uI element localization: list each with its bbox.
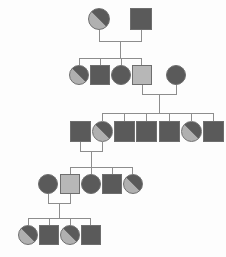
union-4-sibship-line xyxy=(28,218,91,219)
union-2-partner-drop-left xyxy=(142,85,143,94)
pedigree-symbol-male-I-2 xyxy=(130,8,152,30)
pedigree-symbol-male-III-5 xyxy=(159,121,180,142)
union-1-descent-line xyxy=(120,41,121,58)
union-1-partner-drop-right xyxy=(141,30,142,41)
union-1-partner-drop-left xyxy=(99,30,100,41)
pedigree-symbol-female-III-6 xyxy=(181,121,202,142)
union-4-child-drop-3 xyxy=(70,218,71,225)
pedigree-symbol-male-III-7 xyxy=(203,121,224,142)
pedigree-symbol-male-II-2 xyxy=(90,65,110,85)
union-2-child-drop-3 xyxy=(146,113,147,121)
union-3-partner-drop-right xyxy=(102,142,103,151)
pedigree-symbol-female-IV-1 xyxy=(38,174,58,194)
union-1-child-drop-2 xyxy=(100,58,101,65)
union-2-child-drop-4 xyxy=(169,113,170,121)
union-1-child-drop-1 xyxy=(79,58,80,65)
pedigree-symbol-female-II-3 xyxy=(111,65,131,85)
union-2-sibship-line xyxy=(102,113,214,114)
union-1-child-drop-3 xyxy=(121,58,122,65)
pedigree-symbol-female-II-1 xyxy=(69,65,89,85)
union-2-partner-drop-right xyxy=(176,85,177,94)
union-1-sibship-line xyxy=(79,58,142,59)
pedigree-symbol-male-V-4 xyxy=(81,225,101,245)
pedigree-symbol-male-IV-2 xyxy=(60,174,80,194)
pedigree-symbol-female-III-2 xyxy=(92,121,113,142)
union-3-child-drop-4 xyxy=(132,167,133,174)
union-2-child-drop-1 xyxy=(102,113,103,121)
pedigree-symbol-male-III-4 xyxy=(136,121,157,142)
union-4-child-drop-4 xyxy=(90,218,91,225)
pedigree-symbol-female-IV-3 xyxy=(81,174,101,194)
pedigree-symbol-male-IV-4 xyxy=(102,174,122,194)
pedigree-symbol-male-III-1 xyxy=(70,121,91,142)
union-2-child-drop-2 xyxy=(124,113,125,121)
union-2-descent-line xyxy=(159,94,160,113)
pedigree-chart xyxy=(0,0,226,257)
union-3-child-drop-1 xyxy=(70,167,71,174)
pedigree-symbol-female-V-1 xyxy=(18,225,38,245)
union-2-child-drop-5 xyxy=(191,113,192,121)
union-4-child-drop-1 xyxy=(28,218,29,225)
pedigree-symbol-female-IV-5 xyxy=(123,174,143,194)
pedigree-symbol-male-II-4 xyxy=(132,65,152,85)
pedigree-symbol-female-I-1 xyxy=(88,8,110,30)
pedigree-symbol-male-III-3 xyxy=(114,121,135,142)
union-3-sibship-line xyxy=(70,167,133,168)
pedigree-symbol-female-V-3 xyxy=(60,225,80,245)
pedigree-symbol-female-II-5 xyxy=(166,65,186,85)
union-2-child-drop-6 xyxy=(213,113,214,121)
union-4-partner-drop-left xyxy=(48,194,49,203)
union-4-partner-drop-right xyxy=(70,194,71,203)
union-1-child-drop-4 xyxy=(141,58,142,65)
union-4-descent-line xyxy=(59,203,60,218)
union-3-child-drop-2 xyxy=(91,167,92,174)
union-4-child-drop-2 xyxy=(49,218,50,225)
pedigree-symbol-male-V-2 xyxy=(39,225,59,245)
union-3-partner-drop-left xyxy=(80,142,81,151)
union-3-descent-line xyxy=(91,151,92,167)
union-3-child-drop-3 xyxy=(112,167,113,174)
